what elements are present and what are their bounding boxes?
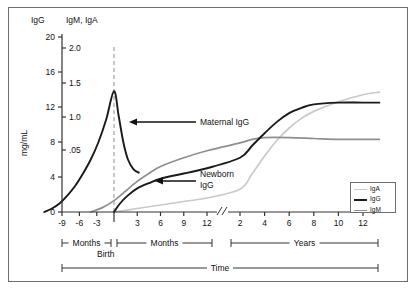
svg-text:6: 6 [158, 218, 163, 228]
svg-text:Months: Months [151, 238, 179, 248]
svg-text:20: 20 [46, 32, 56, 42]
svg-text:1.5: 1.5 [69, 78, 81, 88]
legend-label-iga: IgA [370, 186, 380, 193]
legend-item-igg: IgG [354, 195, 395, 204]
svg-text:4: 4 [262, 218, 267, 228]
svg-text:-9: -9 [58, 218, 66, 228]
svg-text:Months: Months [73, 238, 101, 248]
svg-text:12: 12 [46, 102, 56, 112]
chart-figure: 048121620.051.01.52.0-9-6-33691224681012… [0, 0, 419, 292]
legend-swatch-iga [354, 189, 367, 190]
svg-text:6: 6 [287, 218, 292, 228]
svg-text:8: 8 [50, 137, 55, 147]
legend-swatch-igg [354, 199, 367, 201]
right-axis-header: IgM, IgA [66, 16, 98, 25]
birth-label: Birth [97, 250, 114, 259]
svg-text:0: 0 [50, 207, 55, 217]
svg-text:16: 16 [46, 67, 56, 77]
legend: IgA IgG IgM [350, 182, 396, 213]
svg-text:3: 3 [135, 218, 140, 228]
left-axis-header: IgG [31, 16, 45, 25]
svg-text:4: 4 [50, 172, 55, 182]
svg-text:2.0: 2.0 [69, 43, 81, 53]
svg-text:12: 12 [358, 218, 368, 228]
legend-item-iga: IgA [354, 185, 395, 194]
svg-text:Time: Time [211, 263, 230, 273]
svg-text:Maternal IgG: Maternal IgG [200, 117, 249, 127]
svg-text:.05: .05 [69, 145, 81, 155]
legend-item-igm: IgM [354, 206, 395, 215]
svg-text:-6: -6 [76, 218, 84, 228]
svg-text:IgG: IgG [200, 180, 214, 190]
svg-text:10: 10 [334, 218, 344, 228]
legend-label-igg: IgG [370, 196, 380, 203]
svg-text:Newborn: Newborn [200, 169, 234, 179]
svg-text:Years: Years [294, 238, 315, 248]
legend-label-igm: IgM [370, 207, 381, 214]
svg-text:1.0: 1.0 [69, 112, 81, 122]
y-axis-title: mg/mL [19, 113, 29, 173]
legend-swatch-igm [354, 210, 367, 211]
svg-text:12: 12 [202, 218, 212, 228]
svg-text:8: 8 [311, 218, 316, 228]
svg-text:9: 9 [181, 218, 186, 228]
svg-text:-3: -3 [93, 218, 101, 228]
chart-canvas: 048121620.051.01.52.0-9-6-33691224681012… [0, 0, 419, 292]
svg-text:2: 2 [238, 218, 243, 228]
